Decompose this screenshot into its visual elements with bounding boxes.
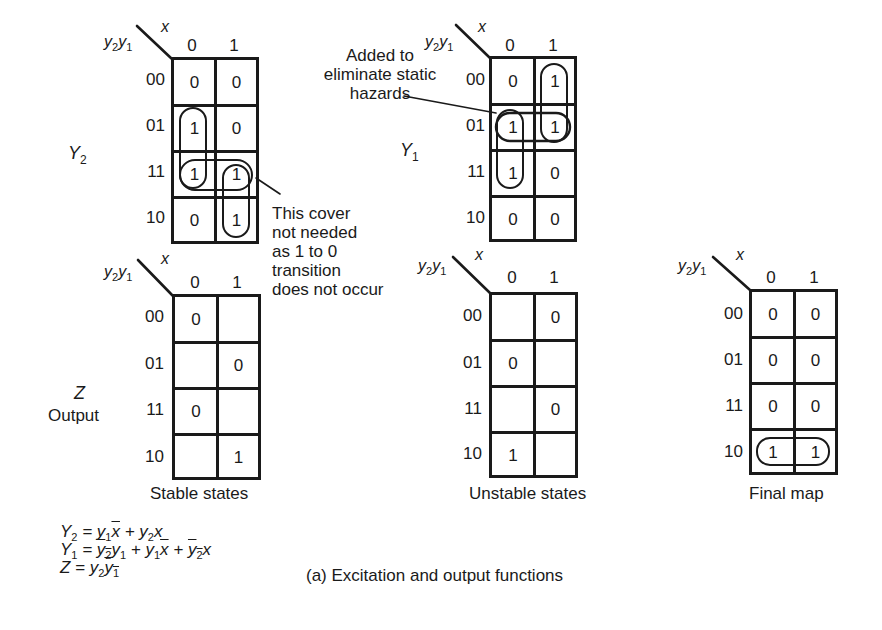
cell [175, 435, 217, 480]
col-axis-label: x [161, 18, 169, 36]
row-header-11: 11 [713, 396, 743, 416]
col-header-1: 1 [227, 273, 247, 293]
cell: 1 [174, 152, 215, 197]
cell: 0 [535, 387, 576, 432]
cell: 0 [218, 343, 259, 388]
cell: 0 [535, 197, 575, 242]
caption-unstable-states: Unstable states [469, 484, 586, 504]
row-header-10: 10 [135, 208, 165, 228]
corner-diagonal [713, 257, 750, 290]
cell: 0 [175, 297, 217, 342]
cell [218, 297, 259, 342]
cell: 0 [795, 292, 836, 337]
cell [492, 387, 534, 432]
cell: 1 [492, 151, 534, 196]
row-axis-label: y2y1 [104, 263, 132, 283]
row-header-11: 11 [134, 400, 164, 420]
cell: 0 [795, 338, 836, 383]
cell: 0 [795, 384, 836, 429]
cell [492, 295, 534, 340]
col-header-0: 0 [185, 273, 205, 293]
row-header-11: 11 [452, 399, 482, 419]
col-header-1: 1 [544, 268, 564, 288]
equation-Z: Z = y2y1 [60, 558, 119, 583]
col-header-0: 0 [500, 36, 520, 56]
cell [218, 389, 259, 434]
cell: 0 [174, 198, 215, 243]
cell: 0 [175, 389, 217, 434]
cell: 1 [492, 105, 534, 150]
row-header-01: 01 [452, 353, 482, 373]
cell: 1 [795, 430, 836, 475]
caption-final-map: Final map [749, 484, 824, 504]
kmap-grid: 0 0 0 0 0 0 1 1 [749, 289, 838, 475]
col-axis-label: x [475, 246, 483, 264]
row-header-00: 00 [452, 306, 482, 326]
function-label-Z: Z [74, 383, 85, 404]
cell: 0 [752, 338, 794, 383]
corner-diagonal [453, 257, 490, 293]
col-header-1: 1 [224, 36, 244, 56]
leader-line-cover [256, 178, 280, 194]
row-header-00: 00 [455, 70, 485, 90]
kmap-grid: 0 0 1 0 1 1 0 1 [171, 57, 259, 244]
row-header-10: 10 [455, 208, 485, 228]
row-header-00: 00 [713, 304, 743, 324]
cell: 1 [492, 433, 534, 478]
kmap-grid: 0 0 0 1 [172, 294, 261, 480]
row-header-10: 10 [134, 447, 164, 467]
col-header-1: 1 [804, 268, 824, 288]
cell: 0 [492, 59, 534, 104]
kmap-grid: 0 1 1 1 1 0 0 0 [489, 56, 577, 242]
cell: 1 [174, 106, 215, 151]
row-axis-label: y2y1 [104, 33, 132, 53]
row-header-01: 01 [134, 354, 164, 374]
cell: 0 [216, 106, 257, 151]
cell: 0 [535, 151, 575, 196]
row-header-01: 01 [713, 350, 743, 370]
cell: 0 [492, 341, 534, 386]
function-label-Y1: Y1 [400, 140, 419, 164]
col-axis-label: x [478, 18, 486, 36]
figure-caption: (a) Excitation and output functions [306, 566, 563, 586]
cell: 0 [216, 60, 257, 105]
col-header-0: 0 [761, 268, 781, 288]
cover-annotation: This cover not needed as 1 to 0 transiti… [272, 204, 384, 299]
row-header-10: 10 [713, 442, 743, 462]
kmap-grid: 0 0 0 1 [489, 292, 578, 478]
cell: 0 [535, 295, 576, 340]
cell [535, 433, 576, 478]
cell [535, 341, 576, 386]
cell: 1 [535, 59, 575, 104]
row-axis-label: y2y1 [678, 257, 706, 277]
hazard-annotation: Added to eliminate static hazards [305, 46, 455, 103]
row-header-10: 10 [452, 444, 482, 464]
row-header-11: 11 [135, 162, 165, 182]
cell: 1 [216, 198, 257, 243]
cell: 1 [535, 105, 575, 150]
row-header-01: 01 [135, 116, 165, 136]
col-header-0: 0 [182, 36, 202, 56]
row-header-00: 00 [134, 307, 164, 327]
col-axis-label: x [161, 250, 169, 268]
function-label-Y2: Y2 [68, 143, 87, 167]
row-header-00: 00 [135, 70, 165, 90]
cell: 1 [218, 435, 259, 480]
cell: 0 [752, 384, 794, 429]
row-axis-label: y2y1 [418, 257, 446, 277]
cell [175, 343, 217, 388]
row-header-01: 01 [455, 116, 485, 136]
cell: 1 [752, 430, 794, 475]
caption-stable-states: Stable states [150, 484, 248, 504]
col-axis-label: x [736, 246, 744, 264]
cell: 1 [216, 152, 257, 197]
output-label: Output [48, 406, 99, 426]
cell: 0 [492, 197, 534, 242]
col-header-0: 0 [502, 268, 522, 288]
row-header-11: 11 [455, 162, 485, 182]
cell: 0 [752, 292, 794, 337]
cell: 0 [174, 60, 215, 105]
col-header-1: 1 [543, 36, 563, 56]
